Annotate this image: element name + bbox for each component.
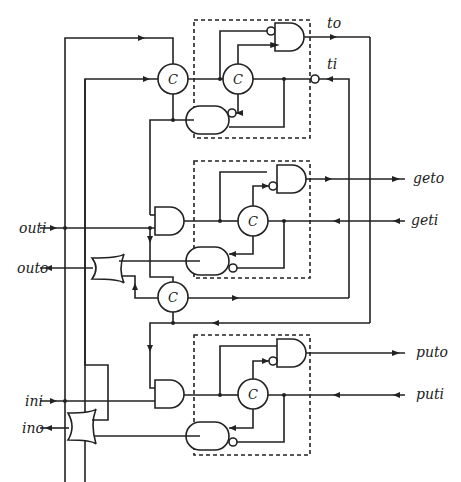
svg-text:geto: geto <box>413 170 444 186</box>
svg-text:ti: ti <box>327 56 337 72</box>
and-gate-ini <box>155 380 184 408</box>
svg-text:geti: geti <box>411 212 438 228</box>
svg-text:outo: outo <box>17 260 49 276</box>
svg-text:C: C <box>248 214 258 229</box>
svg-text:puti: puti <box>416 386 444 402</box>
and-gate-puto <box>277 339 306 367</box>
ti-inverter-bubble <box>311 75 319 83</box>
svg-text:C: C <box>168 290 178 305</box>
svg-text:C: C <box>248 387 258 402</box>
svg-text:ini: ini <box>25 393 43 409</box>
or-gate-ino <box>68 409 96 444</box>
middle-block: outi C geto geti <box>19 165 444 275</box>
and-gate-to <box>275 23 304 51</box>
circuit-diagram: C C to ti <box>0 0 461 482</box>
svg-text:puto: puto <box>416 344 448 360</box>
svg-text:ino: ino <box>22 420 44 436</box>
svg-text:to: to <box>327 15 341 31</box>
or-gate-outo <box>92 254 124 283</box>
svg-text:outi: outi <box>19 220 47 236</box>
and-gate-outi <box>155 207 184 235</box>
svg-text:C: C <box>168 72 178 87</box>
and-gate-geto <box>277 165 306 193</box>
svg-text:C: C <box>233 72 243 87</box>
